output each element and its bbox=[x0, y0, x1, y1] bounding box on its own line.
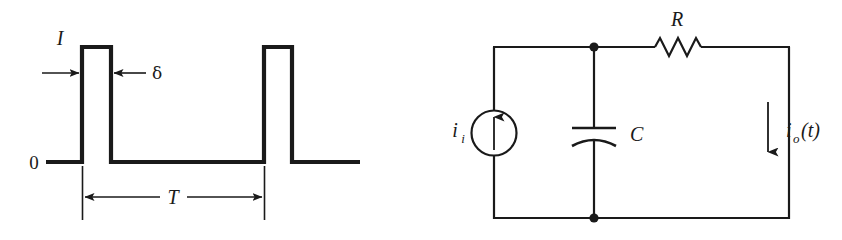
capacitor-label: C bbox=[630, 123, 644, 145]
source-current-label-sub: i bbox=[461, 131, 465, 146]
output-current-label-arg: (t) bbox=[801, 119, 820, 142]
output-current-label-sub: o bbox=[793, 131, 800, 146]
output-current-label-main: i bbox=[786, 119, 792, 141]
baseline-zero-label: 0 bbox=[29, 152, 39, 173]
figure-svg: I 0 δ T R bbox=[0, 0, 842, 240]
amplitude-label: I bbox=[56, 27, 65, 49]
period-label: T bbox=[167, 186, 180, 208]
resistor-label: R bbox=[670, 8, 683, 30]
canvas-background bbox=[0, 0, 842, 240]
pulse-width-label: δ bbox=[152, 63, 162, 83]
node-dot-top bbox=[589, 42, 598, 51]
figure-container: I 0 δ T R bbox=[0, 0, 842, 240]
node-dot-bottom bbox=[589, 213, 598, 222]
source-current-label-main: i bbox=[452, 119, 458, 141]
